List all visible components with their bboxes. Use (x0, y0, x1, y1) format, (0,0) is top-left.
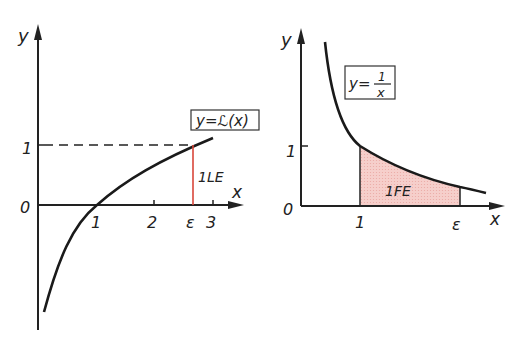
right-x-label: x (489, 209, 501, 229)
right-x-tick-e: ε (452, 215, 461, 234)
left-y-tick-1: 1 (22, 139, 32, 158)
lle-label: 1LE (198, 169, 224, 185)
hyperbola-curve (325, 42, 486, 193)
right-origin-label: 0 (283, 200, 293, 219)
diagram-canvas: y=ℒ(x) y x 0 1 1 2 ε 3 1LE y= 1 x y x 0 … (0, 0, 516, 341)
left-function-label: y=ℒ(x) (195, 112, 249, 130)
left-x-tick-2: 2 (147, 213, 157, 232)
right-y-label: y (280, 29, 292, 50)
right-plot: y= 1 x y x 0 1 1 ε 1FE (280, 28, 505, 234)
left-origin-label: 0 (20, 198, 30, 217)
right-function-num: 1 (378, 70, 386, 84)
right-function-prefix: y= (348, 75, 370, 93)
right-y-tick-1: 1 (286, 142, 296, 161)
left-y-arrow-icon (34, 24, 42, 40)
right-x-tick-1: 1 (355, 213, 365, 232)
left-x-tick-1: 1 (91, 213, 101, 232)
left-y-label: y (17, 25, 29, 46)
left-x-label: x (231, 182, 243, 202)
right-function-den: x (376, 85, 385, 100)
left-x-tick-e: ε (186, 213, 195, 232)
left-x-arrow-icon (228, 201, 244, 209)
left-plot: y=ℒ(x) y x 0 1 1 2 ε 3 1LE (17, 24, 259, 330)
left-x-tick-3: 3 (206, 213, 216, 232)
right-y-arrow-icon (297, 28, 305, 44)
fe-label: 1FE (385, 183, 411, 199)
